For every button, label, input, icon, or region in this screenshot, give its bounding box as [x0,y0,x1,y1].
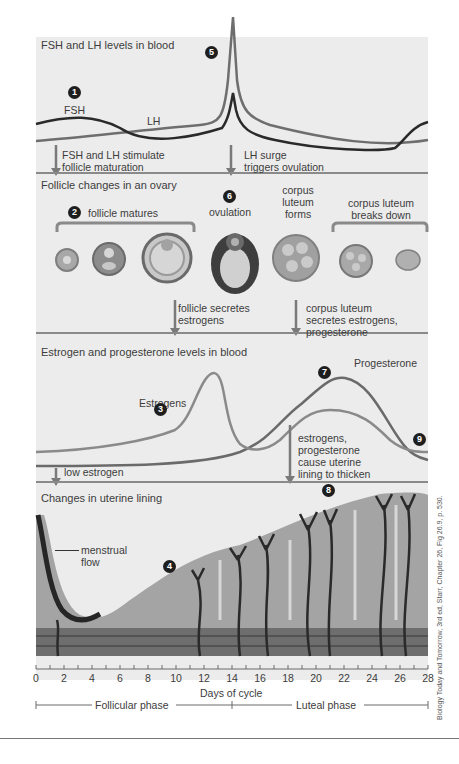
ovulating-follicle [211,233,259,294]
step-2-badge: 2 [68,206,81,219]
follicle-stage-1 [56,249,78,271]
x-axis-label: Days of cycle [200,687,262,699]
axis-ticks [36,665,428,669]
lh-surge-note: LH surge triggers ovulation [244,149,324,173]
fsh-lh-stimulate-note: FSH and LH stimulate follicle maturation [62,149,165,173]
hormone-curves [0,0,459,764]
estrogen-progesterone-panel-title: Estrogen and progesterone levels in bloo… [41,346,247,358]
menstrual-flow-leader [55,550,79,551]
uterine-panel-title: Changes in uterine lining [41,492,162,504]
uterine-lining-illustration [36,493,428,656]
corpus-luteum-secretes-note: corpus luteum secretes estrogens, proges… [306,302,398,338]
corpus-luteum-forming [273,235,319,281]
corpus-luteum-forms-label: corpus luteum forms [276,184,320,220]
luteal-phase-label: Luteal phase [296,699,356,711]
step-9-badge: 9 [413,433,426,446]
follicle-matures-label: follicle matures [88,207,158,219]
corpus-luteum-degrading [340,245,372,277]
ovary-panel-title: Follicle changes in an ovary [41,179,177,191]
step-6-badge: 6 [223,190,236,203]
follicle-stage-3 [143,234,191,282]
corpus-luteum-breaks-label: corpus luteum breaks down [338,197,424,221]
follicle-stage-2 [93,243,125,275]
divider-3 [36,481,428,483]
progesterone-label: Progesterone [354,357,417,369]
lining-thicken-note: estrogens, progesterone cause uterine li… [298,432,370,480]
bottom-rule [0,738,459,739]
step-4-badge: 4 [163,560,176,573]
follicle-secretes-note: follicle secretes estrogens [178,302,250,326]
step-7-badge: 7 [318,366,331,379]
menstrual-flow-label: menstrual flow [81,544,127,568]
ovulation-label: ovulation [209,206,251,218]
source-credit: Biology Today and Tomorrow, 3rd ed, Star… [436,495,443,720]
low-estrogen-note: low estrogen [64,466,124,478]
corpus-albicans [396,250,420,270]
step-8-badge: 8 [322,484,335,497]
follicular-phase-label: Follicular phase [95,699,169,711]
step-3-badge: 3 [154,403,167,416]
lh-curve [36,17,428,143]
